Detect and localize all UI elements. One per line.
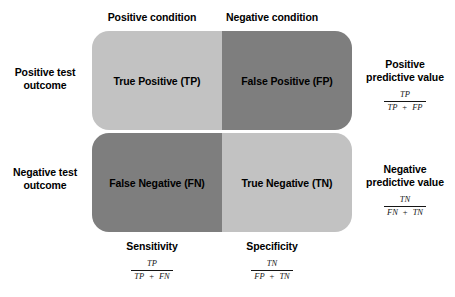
row-header-positive-test-outcome-line1: Positive test	[2, 66, 88, 79]
formula-specificity-denominator-left: FP	[254, 271, 264, 281]
metric-specificity: Specificity TN FP+TN	[212, 240, 332, 283]
formula-specificity-denominator-operator: +	[265, 272, 280, 282]
column-header-positive-condition: Positive condition	[92, 10, 212, 24]
matrix-cell-true-positive: True Positive (TP)	[92, 31, 222, 130]
formula-specificity: TN FP+TN	[251, 259, 293, 282]
formula-npv-denominator-right: TN	[413, 207, 423, 217]
row-header-positive-test-outcome-line2: outcome	[2, 79, 88, 92]
formula-ppv-denominator-left: TP	[387, 102, 397, 112]
formula-sensitivity-denominator-left: TP	[134, 271, 144, 281]
metric-positive-predictive-value-line1: Positive	[357, 58, 453, 71]
formula-npv-numerator: TN	[384, 195, 426, 206]
matrix-cell-true-negative: True Negative (TN)	[222, 133, 352, 232]
metric-sensitivity: Sensitivity TP TP+FN	[92, 240, 212, 283]
formula-npv-denominator-operator: +	[398, 208, 413, 218]
formula-negative-predictive-value: TN FN+TN	[384, 195, 426, 218]
matrix-cell-false-negative: False Negative (FN)	[92, 133, 222, 232]
formula-positive-predictive-value: TP TP+FP	[384, 90, 425, 113]
formula-specificity-numerator: TN	[251, 259, 293, 270]
metric-positive-predictive-value-line2: predictive value	[357, 71, 453, 84]
row-header-positive-test-outcome: Positive test outcome	[2, 66, 88, 92]
matrix-cell-false-positive: False Positive (FP)	[222, 31, 352, 130]
confusion-matrix-diagram: Positive condition Negative condition Po…	[0, 0, 455, 297]
metric-negative-predictive-value-line2: predictive value	[357, 176, 453, 189]
formula-sensitivity-denominator-right: FN	[159, 271, 170, 281]
matrix-row-negative-test-outcome: False Negative (FN) True Negative (TN)	[92, 133, 352, 232]
formula-sensitivity-numerator: TP	[131, 259, 173, 270]
formula-ppv-denominator: TP+FP	[384, 101, 425, 113]
formula-sensitivity-denominator: TP+FN	[131, 270, 173, 282]
row-header-negative-test-outcome-line1: Negative test	[2, 166, 88, 179]
metric-positive-predictive-value: Positive predictive value TP TP+FP	[357, 58, 453, 114]
formula-ppv-numerator: TP	[384, 90, 425, 101]
formula-specificity-denominator-right: TN	[279, 271, 289, 281]
matrix-row-positive-test-outcome: True Positive (TP) False Positive (FP)	[92, 31, 352, 130]
metric-negative-predictive-value: Negative predictive value TN FN+TN	[357, 163, 453, 219]
metric-positive-predictive-value-title: Positive predictive value	[357, 58, 453, 84]
metric-negative-predictive-value-title: Negative predictive value	[357, 163, 453, 189]
metric-sensitivity-title: Sensitivity	[92, 240, 212, 253]
formula-npv-denominator-left: FN	[387, 207, 398, 217]
formula-sensitivity-denominator-operator: +	[144, 272, 159, 282]
formula-sensitivity: TP TP+FN	[131, 259, 173, 282]
matrix-grid: True Positive (TP) False Positive (FP) F…	[92, 31, 352, 232]
formula-ppv-denominator-right: FP	[412, 102, 422, 112]
formula-npv-denominator: FN+TN	[384, 206, 426, 218]
column-header-negative-condition: Negative condition	[212, 10, 332, 24]
metric-specificity-title: Specificity	[212, 240, 332, 253]
metric-negative-predictive-value-line1: Negative	[357, 163, 453, 176]
row-header-negative-test-outcome: Negative test outcome	[2, 166, 88, 192]
formula-ppv-denominator-operator: +	[397, 103, 412, 113]
row-header-negative-test-outcome-line2: outcome	[2, 179, 88, 192]
formula-specificity-denominator: FP+TN	[251, 270, 293, 282]
